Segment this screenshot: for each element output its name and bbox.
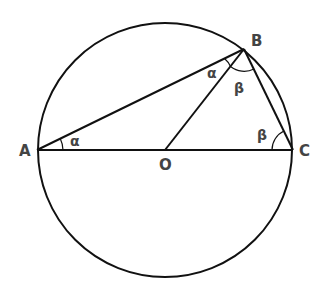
segment-ob: [165, 49, 244, 150]
angle-label-alpha-a: α: [70, 133, 80, 149]
angle-arc-b-beta: [231, 67, 255, 72]
point-label-a: A: [19, 142, 31, 160]
point-label-b: B: [251, 32, 262, 50]
angle-label-beta-b: β: [234, 80, 244, 96]
angle-arc-b-alpha: [225, 59, 231, 67]
point-label-o: O: [159, 156, 172, 174]
diagram-canvas: A B C O α α β β: [0, 0, 326, 288]
point-label-c: C: [299, 142, 310, 160]
angle-label-beta-c: β: [257, 127, 267, 143]
geometry-diagram: A B C O α α β β: [0, 0, 326, 288]
angle-arc-a: [60, 139, 63, 150]
angle-arc-c: [272, 131, 284, 150]
angle-label-alpha-b: α: [207, 65, 217, 81]
segment-bc: [244, 49, 293, 150]
